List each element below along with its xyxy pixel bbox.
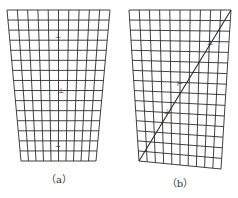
grid-line-vertical: [48, 10, 51, 161]
grid-line-vertical: [188, 10, 190, 166]
grid-line-vertical: [196, 10, 200, 167]
dislocation-marker-icon: ⊥: [55, 141, 61, 149]
dislocation-marker-icon: ⊥: [58, 87, 64, 95]
grid-line-vertical: [160, 10, 164, 163]
grid-line-vertical: [81, 10, 89, 161]
grid-line-vertical: [205, 10, 211, 167]
grid-line-vertical: [74, 10, 80, 161]
grid-line-vertical: [66, 10, 69, 161]
grid-line-horizontal: [130, 20, 231, 21]
grid-line-vertical: [28, 10, 36, 161]
caption-a: （a）: [39, 171, 79, 186]
caption-b: （b）: [160, 175, 200, 190]
grid-line-vertical: [38, 10, 44, 161]
dislocation-marker-icon: ⊢: [177, 80, 183, 88]
grid-line-horizontal: [130, 30, 229, 31]
grid-figure: ⊥⊥⊥⊥⊢⊥: [0, 0, 238, 198]
grid-line-vertical: [221, 10, 231, 169]
grid-line-vertical: [129, 10, 139, 161]
grid-line-vertical: [139, 10, 147, 162]
dislocation-marker-icon: ⊥: [207, 39, 213, 47]
grid-line-vertical: [170, 10, 172, 164]
dislocation-marker-icon: ⊥: [55, 32, 61, 40]
dislocation-marker-icon: ⊥: [164, 108, 170, 116]
